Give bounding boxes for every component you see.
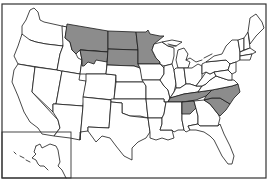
state-new-york[interactable] (206, 40, 240, 64)
state-colorado[interactable] (83, 74, 116, 100)
alaska-inset-frame (2, 132, 71, 178)
alaska-aleutians (14, 152, 30, 162)
state-north-dakota[interactable] (108, 31, 138, 50)
great-lakes-outline (168, 44, 212, 62)
state-kansas[interactable] (114, 82, 146, 99)
state-florida[interactable] (188, 124, 234, 164)
state-maine[interactable] (248, 14, 264, 44)
state-iowa[interactable] (138, 64, 164, 80)
us-map (0, 0, 269, 192)
state-alaska[interactable] (32, 144, 66, 178)
